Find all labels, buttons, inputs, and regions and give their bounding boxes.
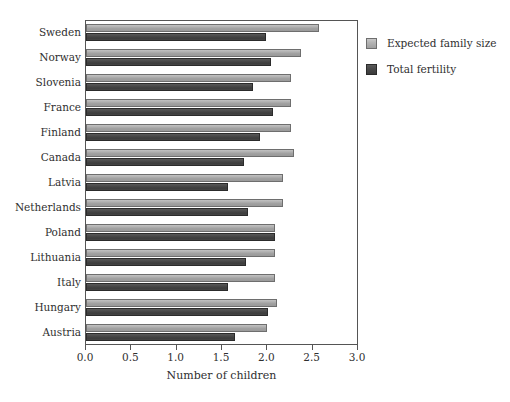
x-tick-label: 0.5 <box>110 351 150 363</box>
bar-total-fertility-france <box>86 108 273 116</box>
bar-total-fertility-austria <box>86 333 235 341</box>
bars-wrap <box>86 145 358 170</box>
category-label-finland: Finland <box>0 127 81 138</box>
bar-total-fertility-netherlands <box>86 208 248 216</box>
bars-wrap <box>86 20 358 45</box>
category-label-austria: Austria <box>0 327 81 338</box>
bar-expected-family-size-italy <box>86 274 275 282</box>
bar-expected-family-size-poland <box>86 224 275 232</box>
legend-item-fertility[interactable]: Total fertility <box>366 62 506 82</box>
category-label-latvia: Latvia <box>0 177 81 188</box>
bar-expected-family-size-sweden <box>86 24 319 32</box>
category-label-france: France <box>0 102 81 113</box>
category-label-norway: Norway <box>0 52 81 63</box>
chart-category-row: Sweden <box>0 20 358 45</box>
bar-chart: SwedenNorwaySloveniaFranceFinlandCanadaL… <box>0 0 510 402</box>
chart-category-row: Italy <box>0 270 358 295</box>
x-tick-label: 3.0 <box>337 351 377 363</box>
category-label-canada: Canada <box>0 152 81 163</box>
bar-total-fertility-lithuania <box>86 258 246 266</box>
x-tick-mark <box>221 345 222 350</box>
x-axis-title: Number of children <box>85 369 358 382</box>
x-tick-label: 2.0 <box>246 351 286 363</box>
bar-total-fertility-hungary <box>86 308 268 316</box>
chart-category-row: Poland <box>0 220 358 245</box>
bars-wrap <box>86 295 358 320</box>
category-label-hungary: Hungary <box>0 302 81 313</box>
category-label-poland: Poland <box>0 227 81 238</box>
x-axis-ticks: 0.00.51.01.52.02.53.0 <box>85 345 358 369</box>
bar-total-fertility-italy <box>86 283 228 291</box>
x-tick-mark <box>266 345 267 350</box>
x-tick-mark <box>130 345 131 350</box>
legend-label: Total fertility <box>387 63 456 76</box>
bar-expected-family-size-norway <box>86 49 301 57</box>
bar-expected-family-size-lithuania <box>86 249 275 257</box>
legend-swatch-icon <box>366 64 377 75</box>
category-label-netherlands: Netherlands <box>0 202 81 213</box>
bar-total-fertility-poland <box>86 233 275 241</box>
chart-category-row: France <box>0 95 358 120</box>
chart-category-row: Lithuania <box>0 245 358 270</box>
category-label-slovenia: Slovenia <box>0 77 81 88</box>
bar-total-fertility-canada <box>86 158 244 166</box>
bar-total-fertility-finland <box>86 133 260 141</box>
bars-wrap <box>86 220 358 245</box>
bar-expected-family-size-netherlands <box>86 199 283 207</box>
chart-category-row: Netherlands <box>0 195 358 220</box>
bar-expected-family-size-latvia <box>86 174 283 182</box>
chart-category-row: Canada <box>0 145 358 170</box>
x-tick-label: 2.5 <box>292 351 332 363</box>
bar-total-fertility-norway <box>86 58 271 66</box>
chart-category-row: Latvia <box>0 170 358 195</box>
chart-category-row: Hungary <box>0 295 358 320</box>
bars-wrap <box>86 245 358 270</box>
chart-category-row: Austria <box>0 320 358 345</box>
bar-expected-family-size-finland <box>86 124 291 132</box>
bar-expected-family-size-slovenia <box>86 74 291 82</box>
chart-category-row: Norway <box>0 45 358 70</box>
legend-swatch-icon <box>366 38 377 49</box>
bars-wrap <box>86 45 358 70</box>
bars-wrap <box>86 195 358 220</box>
legend-label: Expected family size <box>387 37 496 50</box>
bar-total-fertility-slovenia <box>86 83 253 91</box>
chart-category-row: Slovenia <box>0 70 358 95</box>
bar-expected-family-size-hungary <box>86 299 277 307</box>
bars-wrap <box>86 320 358 345</box>
bars-wrap <box>86 120 358 145</box>
x-tick-mark <box>85 345 86 350</box>
x-tick-mark <box>176 345 177 350</box>
bar-total-fertility-latvia <box>86 183 228 191</box>
bar-expected-family-size-austria <box>86 324 267 332</box>
bar-expected-family-size-france <box>86 99 291 107</box>
category-label-lithuania: Lithuania <box>0 252 81 263</box>
x-tick-label: 1.0 <box>156 351 196 363</box>
bar-total-fertility-sweden <box>86 33 266 41</box>
bar-expected-family-size-canada <box>86 149 294 157</box>
category-label-italy: Italy <box>0 277 81 288</box>
category-rows: SwedenNorwaySloveniaFranceFinlandCanadaL… <box>0 20 358 345</box>
bars-wrap <box>86 70 358 95</box>
x-tick-mark <box>357 345 358 350</box>
chart-legend: Expected family sizeTotal fertility <box>366 36 506 88</box>
bars-wrap <box>86 170 358 195</box>
x-tick-label: 1.5 <box>201 351 241 363</box>
x-tick-mark <box>312 345 313 350</box>
bars-wrap <box>86 270 358 295</box>
legend-item-expected[interactable]: Expected family size <box>366 36 506 56</box>
x-tick-label: 0.0 <box>65 351 105 363</box>
category-label-sweden: Sweden <box>0 27 81 38</box>
bars-wrap <box>86 95 358 120</box>
chart-category-row: Finland <box>0 120 358 145</box>
